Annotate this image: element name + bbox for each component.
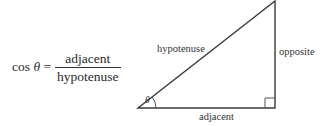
angle-arc xyxy=(152,97,156,108)
adjacent-label: adjacent xyxy=(199,111,234,122)
triangle-outline xyxy=(138,1,275,108)
right-angle-marker xyxy=(265,98,275,108)
theta-angle-label: θ xyxy=(145,95,150,105)
hypotenuse-label: hypotenuse xyxy=(157,43,205,54)
right-triangle xyxy=(0,0,320,126)
opposite-label: opposite xyxy=(279,46,315,57)
